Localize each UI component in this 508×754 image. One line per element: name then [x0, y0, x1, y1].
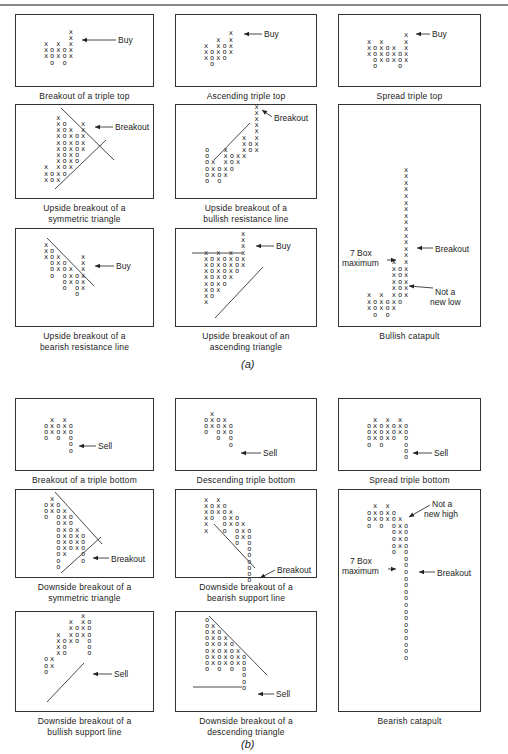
pattern-caption: Bullish catapult [328, 331, 491, 342]
x-box-mark: x [67, 164, 74, 171]
x-box-mark: x [55, 177, 62, 184]
x-box-mark: x [80, 285, 87, 292]
x-box-mark: x [403, 292, 410, 299]
o-box-mark: o [378, 442, 385, 449]
annotation-label: Buy [264, 29, 279, 39]
annotation-label: maximum [342, 566, 379, 576]
annotation-label: Buy [276, 241, 291, 251]
o-box-mark: o [397, 63, 404, 70]
o-box-mark: o [204, 178, 211, 185]
caption-line: Downside breakout of a [5, 582, 164, 593]
x-box-mark: x [80, 146, 87, 153]
annotation-label: Sell [276, 689, 290, 699]
annotation-label: 7 Box [350, 556, 372, 566]
caption-line: bearish support line [165, 593, 327, 604]
o-box-mark: o [366, 523, 373, 530]
o-box-mark: o [221, 528, 228, 535]
caption-line: bullish support line [5, 727, 164, 738]
o-box-mark: o [61, 285, 68, 292]
pattern-panel-b1 [15, 398, 154, 471]
annotation-label: Sell [434, 448, 448, 458]
o-box-mark: o [74, 638, 81, 645]
o-box-mark: o [234, 268, 241, 275]
o-box-mark: o [228, 166, 235, 173]
o-box-mark: o [61, 60, 68, 67]
caption-line: descending triangle [165, 727, 327, 738]
x-box-mark: x [240, 262, 247, 269]
caption-line: Spread triple bottom [328, 475, 491, 486]
o-box-mark: o [74, 291, 81, 298]
x-box-mark: x [203, 528, 210, 535]
x-box-mark: x [253, 147, 260, 154]
o-box-mark: o [390, 549, 397, 556]
caption-line: Ascending triple top [165, 91, 327, 102]
caption-line: Upside breakout of a [165, 203, 327, 214]
x-box-mark: x [403, 57, 410, 64]
o-box-mark: o [209, 61, 216, 68]
pattern-caption: Breakout of a triple top [5, 91, 164, 102]
o-box-mark: o [372, 63, 379, 70]
x-box-mark: x [203, 299, 210, 306]
caption-line: Breakout of a triple bottom [5, 475, 164, 486]
o-box-mark: o [49, 60, 56, 67]
o-box-mark: o [209, 515, 216, 522]
o-box-mark: o [80, 558, 87, 565]
o-box-mark: o [390, 435, 397, 442]
pattern-caption: Breakout of a triple bottom [5, 475, 164, 486]
o-box-mark: o [203, 429, 210, 436]
o-box-mark: o [216, 178, 223, 185]
caption-line: Upside breakout of an [165, 331, 327, 342]
x-box-mark: x [390, 305, 397, 312]
o-box-mark: o [86, 650, 93, 657]
caption-line: Downside breakout of a [5, 716, 164, 727]
o-box-mark: o [43, 669, 50, 676]
annotation-label: Buy [116, 261, 131, 271]
caption-line: ascending triangle [165, 342, 327, 353]
pattern-caption: Spread triple bottom [328, 475, 491, 486]
o-box-mark: o [74, 158, 81, 165]
x-box-mark: x [227, 274, 234, 281]
o-box-mark: o [234, 540, 241, 547]
x-box-mark: x [215, 287, 222, 294]
annotation-label: Breakout [435, 244, 469, 254]
o-box-mark: o [221, 55, 228, 62]
o-box-mark: o [67, 448, 74, 455]
x-box-mark: x [49, 663, 56, 670]
pattern-caption: Descending triple bottom [165, 475, 327, 486]
o-box-mark: o [204, 666, 211, 673]
caption-line: symmetric triangle [5, 214, 164, 225]
caption-line: Upside breakout of a [5, 331, 164, 342]
o-box-mark: o [372, 312, 379, 319]
o-box-mark: o [61, 171, 68, 178]
caption-line: bearish resistance line [5, 342, 164, 353]
pattern-caption: Upside breakout of asymmetric triangle [5, 203, 164, 225]
x-box-mark: x [235, 159, 242, 166]
annotation-label: new high [424, 509, 458, 519]
pattern-panel-a1 [15, 14, 154, 87]
x-box-mark: x [67, 53, 74, 60]
o-box-mark: o [241, 685, 248, 692]
annotation-label: Breakout [115, 122, 149, 132]
caption-line: Downside breakout of a [165, 582, 327, 593]
section-a-label: (a) [241, 358, 254, 370]
caption-line: Bullish catapult [328, 331, 491, 342]
o-box-mark: o [216, 666, 223, 673]
o-box-mark: o [61, 650, 68, 657]
pattern-caption: Upside breakout of anascending triangle [165, 331, 327, 353]
annotation-label: 7 Box [350, 248, 372, 258]
pattern-caption: Downside breakout of abearish support li… [165, 582, 327, 604]
annotation-label: Not a [435, 287, 455, 297]
caption-line: Breakout of a triple top [5, 91, 164, 102]
annotation-label: Breakout [277, 565, 311, 575]
o-box-mark: o [49, 273, 56, 280]
pattern-caption: Upside breakout of abullish resistance l… [165, 203, 327, 225]
o-box-mark: o [227, 442, 234, 449]
o-box-mark: o [209, 293, 216, 300]
pattern-caption: Downside breakout of adescending triangl… [165, 716, 327, 738]
annotation-label: Sell [98, 441, 112, 451]
caption-line: Upside breakout of a [5, 203, 164, 214]
caption-line: Spread triple top [328, 91, 491, 102]
annotation-label: Not a [432, 499, 452, 509]
o-box-mark: o [215, 435, 222, 442]
o-box-mark: o [55, 435, 62, 442]
